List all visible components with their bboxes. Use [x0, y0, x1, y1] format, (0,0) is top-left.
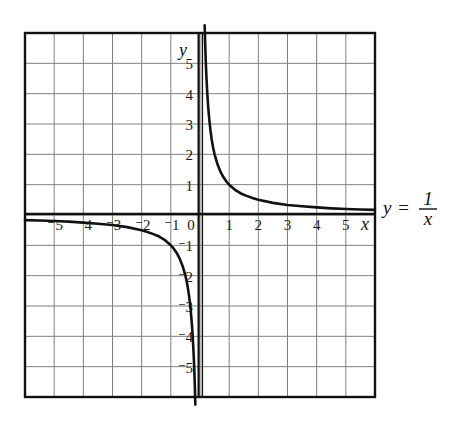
x-tick-label-3: 3	[284, 217, 292, 233]
x-axis-variable-label: x	[360, 214, 369, 234]
y-tick-label-4: 4	[186, 87, 194, 103]
equation-operator: =	[397, 197, 410, 218]
x-tick-label-5: 5	[342, 217, 350, 233]
coordinate-plane-svg: ⁻5⁻4⁻3⁻2⁻1012345⁻5⁻4⁻3⁻2⁻112345 y x y = …	[0, 0, 454, 423]
equation-numerator: 1	[423, 188, 433, 209]
y-tick-label-2: 2	[186, 147, 194, 163]
y-tick-label--1: ⁻1	[178, 238, 194, 254]
x-tick-label-4: 4	[313, 217, 321, 233]
equation-denominator: x	[423, 208, 433, 229]
x-tick-label-1: 1	[225, 217, 233, 233]
equation-lhs: y	[381, 197, 392, 218]
x-tick-label--5: ⁻5	[47, 217, 63, 233]
y-tick-label--5: ⁻5	[178, 360, 194, 376]
x-tick-label--4: ⁻4	[77, 217, 93, 233]
y-tick-label-1: 1	[186, 178, 194, 194]
y-axis-variable-label: y	[177, 40, 187, 60]
x-tick-label--1: ⁻1	[164, 217, 180, 233]
y-tick-label-3: 3	[186, 117, 194, 133]
x-tick-label-0: 0	[187, 217, 195, 233]
graph-figure: ⁻5⁻4⁻3⁻2⁻1012345⁻5⁻4⁻3⁻2⁻112345 y x y = …	[0, 0, 454, 423]
x-tick-label-2: 2	[255, 217, 263, 233]
